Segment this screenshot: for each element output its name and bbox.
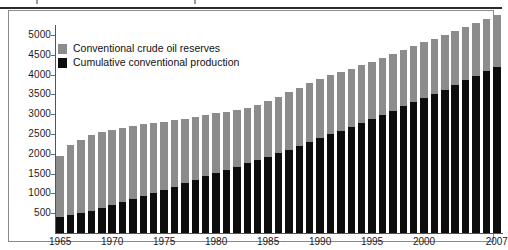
y-tick-mark: [51, 55, 55, 56]
bar-segment-production: [389, 111, 396, 233]
x-tick-label: 1980: [205, 236, 227, 248]
bar-segment-production: [472, 76, 479, 233]
bar-segment-production: [56, 217, 63, 233]
x-tick-label: 1985: [257, 236, 279, 248]
bar-column: [400, 50, 407, 233]
bar-segment-production: [119, 202, 126, 233]
legend-label-production: Cumulative conventional production: [73, 57, 239, 68]
bar-column: [77, 140, 84, 234]
bar-column: [368, 62, 375, 233]
y-tick-mark: [51, 174, 55, 175]
bar-column: [431, 39, 438, 233]
y-tick-label: 500: [11, 208, 51, 218]
bar-segment-production: [285, 150, 292, 233]
bar-segment-production: [77, 213, 84, 233]
bar-segment-production: [140, 196, 147, 233]
bar-segment-production: [88, 211, 95, 233]
bar-column: [275, 97, 282, 233]
bar-column: [108, 130, 115, 233]
bar-column: [160, 122, 167, 233]
bar-column: [181, 119, 188, 233]
y-tick-mark: [51, 193, 55, 194]
y-tick-label: 3000: [11, 109, 51, 119]
y-tick-mark: [51, 154, 55, 155]
bar-column: [296, 88, 303, 233]
bar-column: [389, 54, 396, 233]
bar-column: [493, 15, 500, 233]
bar-segment-production: [202, 176, 209, 233]
x-tick-label: 1990: [309, 236, 331, 248]
bar-segment-production: [212, 173, 219, 233]
bar-segment-production: [337, 131, 344, 233]
bar-column: [462, 27, 469, 233]
bar-column: [337, 72, 344, 233]
chart-legend: Conventional crude oil reserves Cumulati…: [58, 42, 239, 70]
x-tick-label: 2000: [413, 236, 435, 248]
top-divider-line: [0, 7, 502, 9]
bar-column: [233, 110, 240, 233]
y-tick-mark: [51, 134, 55, 135]
y-tick-label: 1000: [11, 188, 51, 198]
bar-segment-production: [431, 94, 438, 233]
bar-column: [451, 31, 458, 233]
bar-column: [88, 135, 95, 233]
bar-column: [98, 132, 105, 233]
bar-segment-production: [296, 146, 303, 233]
bar-segment-production: [171, 187, 178, 233]
bar-column: [171, 120, 178, 233]
bar-segment-production: [441, 90, 448, 233]
bar-column: [56, 156, 63, 233]
y-tick-mark: [51, 75, 55, 76]
bar-column: [441, 35, 448, 233]
legend-item-production: Cumulative conventional production: [58, 56, 239, 69]
bar-column: [244, 108, 251, 233]
bar-segment-production: [98, 208, 105, 233]
bar-segment-production: [462, 80, 469, 233]
bar-segment-production: [451, 85, 458, 233]
bar-column: [129, 126, 136, 233]
y-tick-label: 3500: [11, 89, 51, 99]
bar-segment-production: [233, 167, 240, 233]
y-tick-label: 5000: [11, 30, 51, 40]
bar-column: [150, 123, 157, 233]
bar-column: [420, 42, 427, 233]
bar-column: [483, 19, 490, 233]
bar-segment-production: [483, 71, 490, 233]
y-tick-label: 4000: [11, 70, 51, 80]
bar-segment-production: [264, 157, 271, 233]
bar-column: [254, 105, 261, 233]
bar-segment-production: [348, 127, 355, 233]
bar-column: [212, 113, 219, 233]
bar-column: [348, 69, 355, 233]
bar-column: [472, 23, 479, 233]
bar-column: [67, 145, 74, 233]
bar-column: [379, 58, 386, 233]
bar-column: [223, 112, 230, 233]
bar-column: [316, 79, 323, 233]
bar-segment-production: [160, 190, 167, 233]
y-tick-label: 4500: [11, 50, 51, 60]
bar-segment-production: [327, 134, 334, 233]
bar-segment-production: [358, 123, 365, 233]
bar-segment-production: [254, 160, 261, 233]
y-tick-label: 2000: [11, 149, 51, 159]
bar-column: [410, 46, 417, 233]
reserves-swatch-icon: [58, 44, 67, 54]
bar-segment-production: [379, 115, 386, 233]
production-swatch-icon: [58, 58, 67, 68]
bar-column: [285, 92, 292, 233]
y-tick-mark: [51, 35, 55, 36]
bar-column: [327, 75, 334, 233]
x-tick-label: 1995: [361, 236, 383, 248]
bar-segment-production: [192, 180, 199, 233]
x-tick-label: 1970: [101, 236, 123, 248]
x-tick-label: 1975: [153, 236, 175, 248]
legend-item-reserves: Conventional crude oil reserves: [58, 42, 239, 55]
bar-segment-production: [150, 193, 157, 233]
y-tick-mark: [51, 213, 55, 214]
bar-segment-production: [410, 102, 417, 233]
y-tick-mark: [51, 114, 55, 115]
bar-segment-production: [181, 183, 188, 233]
cropped-top-rule: [0, 0, 502, 9]
